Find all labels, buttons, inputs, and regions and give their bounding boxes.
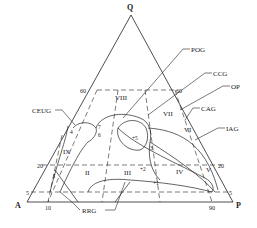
field-dividers <box>48 90 212 202</box>
field-II: II <box>85 169 90 177</box>
field-IV: IV <box>176 168 183 176</box>
tick-base-10: 10 <box>45 205 51 211</box>
vertex-q: Q <box>127 3 133 12</box>
point-5: +5 <box>132 135 138 141</box>
tick-left-5: 5 <box>26 190 29 196</box>
field-I: I <box>53 172 56 180</box>
tick-right-60: 60 <box>176 88 182 94</box>
callout-rrg: RRG <box>82 207 96 215</box>
callout-ceug: CEUG <box>32 107 51 115</box>
point-7: 7 <box>98 124 101 130</box>
tick-right-20: 20 <box>218 163 224 169</box>
tick-right-5: 5 <box>229 190 232 196</box>
field-VI: VI <box>184 126 192 134</box>
qap-ternary-diagram: Q A P 60 60 20 20 5 5 10 90 I II III IV … <box>0 0 257 228</box>
callout-op: OP <box>231 83 240 91</box>
tick-base-90: 90 <box>209 205 215 211</box>
point-4: 4 <box>70 129 73 135</box>
field-V: V <box>206 166 211 174</box>
field-III: III <box>124 169 132 177</box>
point-6: 6 <box>98 132 101 138</box>
tick-left-60: 60 <box>80 88 86 94</box>
point-3: 3 <box>150 145 153 151</box>
vertex-p: P <box>236 201 241 210</box>
point-1: +1 <box>153 180 159 186</box>
field-VII: VII <box>163 110 173 118</box>
callout-pog: POG <box>191 46 205 54</box>
callout-leaders <box>55 49 230 210</box>
callout-iag: IAG <box>226 125 238 133</box>
callout-ccg: CCG <box>213 70 227 78</box>
point-2: +2 <box>140 166 146 172</box>
tick-left-20: 20 <box>37 163 43 169</box>
vertex-a: A <box>15 201 21 210</box>
field-IX: IX <box>63 148 70 156</box>
field-VIII: VIII <box>115 94 128 102</box>
callout-cag: CAG <box>201 105 216 113</box>
